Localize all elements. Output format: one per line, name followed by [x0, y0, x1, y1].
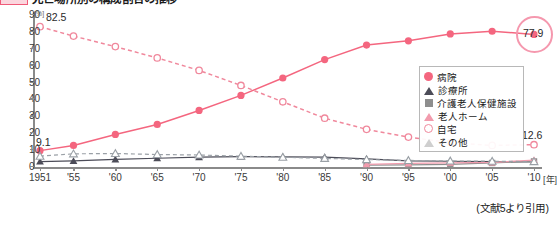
data-point-自宅	[154, 55, 160, 61]
data-point-病院	[237, 92, 244, 99]
x-tick-label: 1951	[29, 172, 51, 183]
x-tick-label: '05	[486, 172, 499, 183]
x-tick-mark	[367, 167, 368, 171]
title-badge-icon	[0, 0, 28, 5]
x-tick-mark	[450, 167, 451, 171]
chart-legend: 病院 診療所 介護老人保健施設 老人ホーム 自宅 その他	[419, 66, 524, 152]
y-tick-mark	[30, 166, 34, 167]
data-point-病院	[363, 41, 370, 48]
figure-title: 死亡場所別の構成割合の推移	[32, 0, 178, 5]
x-tick-mark	[492, 167, 493, 171]
x-tick-label: '10	[527, 172, 540, 183]
data-point-病院	[279, 74, 286, 81]
circle-filled-icon	[424, 72, 433, 81]
x-tick-mark	[283, 167, 284, 171]
x-tick-label: '00	[444, 172, 457, 183]
x-tick-label: '60	[109, 172, 122, 183]
data-point-病院	[447, 30, 454, 37]
legend-item-clinic[interactable]: 診療所	[424, 83, 518, 96]
legend-item-other[interactable]: その他	[424, 135, 518, 148]
y-tick-mark	[30, 65, 34, 66]
legend-label: 老人ホーム	[438, 109, 488, 123]
data-point-病院	[321, 56, 328, 63]
data-point-病院	[154, 121, 161, 128]
x-tick-mark	[199, 167, 200, 171]
y-tick-mark	[30, 132, 34, 133]
x-tick-mark	[325, 167, 326, 171]
x-tick-label: '85	[318, 172, 331, 183]
triangle-open-icon	[424, 139, 434, 147]
legend-item-hospital[interactable]: 病院	[424, 70, 518, 83]
x-tick-mark	[73, 167, 74, 171]
y-tick-mark	[30, 98, 34, 99]
x-tick-label: '75	[234, 172, 247, 183]
legend-label: 診療所	[438, 83, 468, 97]
source-note: (文献5より引用)	[476, 200, 549, 215]
legend-item-elderly-home[interactable]: 老人ホーム	[424, 109, 518, 122]
chart-figure: 死亡場所別の構成割合の推移 [%] 0102030405060708090 19…	[0, 0, 557, 226]
highlight-ring	[516, 16, 553, 53]
data-point-自宅	[531, 142, 537, 148]
legend-label: その他	[438, 135, 468, 149]
x-tick-mark	[115, 167, 116, 171]
square-grey-icon	[425, 99, 433, 107]
data-point-自宅	[196, 67, 202, 73]
x-tick-label: '90	[360, 172, 373, 183]
x-tick-label: '65	[151, 172, 164, 183]
x-tick-label: '80	[276, 172, 289, 183]
triangle-pink-icon	[424, 113, 434, 121]
data-point-自宅	[405, 134, 411, 140]
y-tick-mark	[30, 82, 34, 83]
data-point-自宅	[321, 115, 327, 121]
data-point-病院	[489, 28, 496, 35]
circle-open-icon	[424, 124, 433, 133]
x-axis-line	[33, 167, 542, 169]
x-axis-unit: [年]	[543, 173, 557, 186]
x-tick-mark	[408, 167, 409, 171]
x-tick-mark	[40, 167, 41, 171]
legend-item-care-facility[interactable]: 介護老人保健施設	[424, 96, 518, 109]
x-tick-label: '55	[67, 172, 80, 183]
legend-label: 介護老人保健施設	[437, 96, 517, 110]
x-tick-label: '95	[402, 172, 415, 183]
data-point-病院	[405, 37, 412, 44]
x-tick-mark	[157, 167, 158, 171]
data-point-自宅	[70, 33, 76, 39]
legend-label: 病院	[437, 70, 457, 84]
triangle-dark-icon	[424, 87, 434, 95]
y-tick-mark	[30, 48, 34, 49]
y-tick-mark	[30, 31, 34, 32]
value-label-82.5: 82.5	[46, 11, 66, 23]
y-tick-mark	[30, 115, 34, 116]
data-point-自宅	[238, 82, 244, 88]
x-tick-label: '70	[193, 172, 206, 183]
y-tick-mark	[30, 14, 34, 15]
value-label-12.6: 12.6	[522, 129, 542, 141]
legend-item-home[interactable]: 自宅	[424, 122, 518, 135]
y-tick-mark	[30, 149, 34, 150]
legend-label: 自宅	[437, 122, 457, 136]
value-label-9.1: 9.1	[36, 136, 51, 148]
data-point-自宅	[112, 43, 118, 49]
data-point-病院	[195, 107, 202, 114]
data-point-病院	[112, 131, 119, 138]
figure-title-strip: 死亡場所別の構成割合の推移	[0, 0, 557, 5]
data-point-自宅	[280, 99, 286, 105]
data-point-自宅	[363, 126, 369, 132]
data-point-病院	[70, 142, 77, 149]
x-tick-mark	[534, 167, 535, 171]
x-tick-mark	[241, 167, 242, 171]
